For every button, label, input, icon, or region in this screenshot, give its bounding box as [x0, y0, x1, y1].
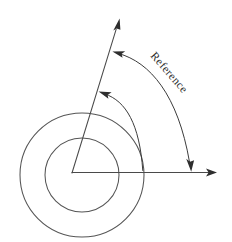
- inner-arc-curve: [105, 94, 143, 171]
- outer-circle: [20, 113, 144, 237]
- inner-arc-start-arrow-icon: [99, 92, 112, 99]
- angled-ray-arrow-icon: [113, 19, 120, 31]
- reference-angle-diagram: Reference: [0, 0, 232, 242]
- angled-ray-line: [72, 29, 116, 173]
- reference-arc-curve: [119, 54, 190, 163]
- reference-arc-end-arrow-icon: [186, 159, 194, 172]
- inner-circle: [45, 138, 119, 212]
- reference-label: Reference: [148, 49, 190, 95]
- diagram-canvas: Reference: [0, 0, 232, 242]
